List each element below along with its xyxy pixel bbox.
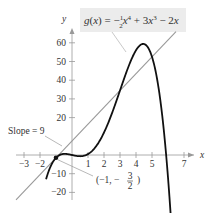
point-label-close: )	[137, 175, 140, 186]
x-tick-label: −2	[35, 159, 45, 169]
point-label: (−1, −	[96, 175, 119, 186]
chart-canvas: xy−3−2123457−20−102030405060Slope = 9(−1…	[0, 0, 207, 213]
y-tick-label: 60	[57, 38, 67, 48]
x-axis-arrow-icon	[188, 153, 194, 158]
x-tick-label: −3	[19, 159, 29, 169]
y-axis-label: y	[61, 14, 67, 24]
y-tick-label: 40	[57, 75, 67, 85]
tangent-point	[54, 156, 59, 161]
slope-label: Slope = 9	[8, 126, 45, 136]
y-tick-label: −20	[51, 187, 66, 197]
point-frac-num: 3	[128, 171, 133, 181]
x-tick-label: 1	[86, 159, 91, 169]
x-tick-label: 2	[102, 159, 107, 169]
x-axis-label: x	[199, 150, 205, 160]
x-tick-label: 7	[182, 159, 187, 169]
function-label-leader	[112, 32, 126, 52]
point-frac-den: 2	[128, 181, 133, 191]
x-tick-label: 4	[134, 159, 139, 169]
x-tick-label: 3	[118, 159, 123, 169]
x-tick-label: 5	[150, 159, 155, 169]
chart-figure: xy−3−2123457−20−102030405060Slope = 9(−1…	[0, 0, 207, 213]
y-tick-label: 30	[57, 94, 67, 104]
slope-leader	[45, 136, 62, 146]
y-axis-arrow-icon	[70, 28, 75, 34]
y-tick-label: −10	[51, 169, 66, 179]
y-tick-label: 50	[57, 57, 67, 67]
y-tick-label: 20	[57, 113, 67, 123]
